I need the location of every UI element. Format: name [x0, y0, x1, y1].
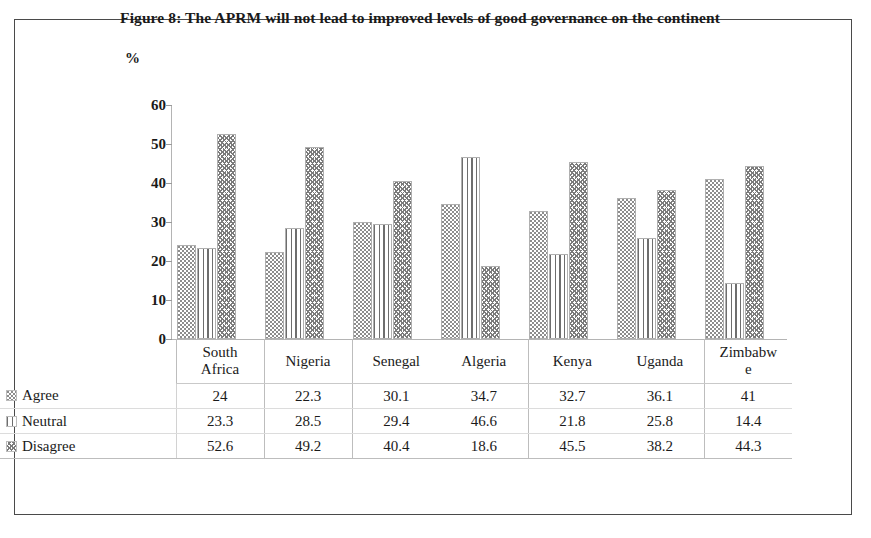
bar-neutral-uganda — [637, 238, 656, 339]
column-header-label-cont: e — [705, 361, 793, 378]
cell-neutral-uganda: 25.8 — [616, 409, 704, 434]
column-header-algeria: Algeria — [440, 339, 528, 384]
cell-disagree-kenya: 45.5 — [528, 434, 616, 459]
bar-group — [700, 105, 788, 339]
bar-group — [260, 105, 348, 339]
cell-agree-senegal: 30.1 — [352, 384, 440, 409]
bar-agree-zimbabwe — [705, 179, 724, 339]
column-header-zimbabwe: Zimbabwe — [704, 339, 792, 384]
table-header-corner — [0, 339, 176, 384]
y-tick-label: 60 — [132, 99, 166, 111]
bar-group — [348, 105, 436, 339]
bar-agree-nigeria — [265, 252, 284, 339]
cell-disagree-south-africa: 52.6 — [176, 434, 264, 459]
bar-group — [436, 105, 524, 339]
bar-groups — [172, 105, 788, 339]
cell-neutral-kenya: 21.8 — [528, 409, 616, 434]
cell-neutral-south-africa: 23.3 — [176, 409, 264, 434]
bar-neutral-kenya — [549, 254, 568, 339]
legend-entry-disagree: Disagree — [0, 434, 176, 459]
legend-swatch-vertical-lines-icon — [6, 416, 17, 427]
bar-disagree-kenya — [569, 162, 588, 339]
data-table: SouthAfricaNigeriaSenegalAlgeriaKenyaUga… — [0, 339, 838, 459]
legend-swatch-dots-icon — [6, 390, 17, 401]
cell-neutral-nigeria: 28.5 — [264, 409, 352, 434]
cell-disagree-nigeria: 49.2 — [264, 434, 352, 459]
column-header-label: Uganda — [616, 353, 704, 370]
column-header-nigeria: Nigeria — [264, 339, 352, 384]
column-header-senegal: Senegal — [352, 339, 440, 384]
column-header-label: Senegal — [353, 353, 441, 370]
cell-disagree-zimbabwe: 44.3 — [704, 434, 792, 459]
bar-group — [612, 105, 700, 339]
bar-agree-uganda — [617, 198, 636, 339]
cell-disagree-algeria: 18.6 — [440, 434, 528, 459]
cell-neutral-algeria: 46.6 — [440, 409, 528, 434]
bar-disagree-uganda — [657, 190, 676, 339]
column-header-label: Zimbabw — [705, 344, 793, 361]
column-header-label: Algeria — [440, 353, 528, 370]
legend-label: Disagree — [22, 438, 75, 454]
bar-neutral-algeria — [461, 157, 480, 339]
cell-agree-kenya: 32.7 — [528, 384, 616, 409]
legend-entry-agree: Agree — [0, 384, 176, 409]
legend-label: Agree — [22, 387, 59, 403]
table-row-pad — [792, 409, 838, 434]
bar-neutral-nigeria — [285, 228, 304, 339]
bar-disagree-nigeria — [305, 147, 324, 339]
legend-label: Neutral — [22, 413, 67, 429]
y-tick-label: 20 — [132, 255, 166, 267]
cell-agree-zimbabwe: 41 — [704, 384, 792, 409]
bar-agree-kenya — [529, 211, 548, 339]
column-header-label: Nigeria — [265, 353, 352, 370]
cell-agree-algeria: 34.7 — [440, 384, 528, 409]
table-header-row: SouthAfricaNigeriaSenegalAlgeriaKenyaUga… — [0, 339, 838, 384]
y-tick-label: 30 — [132, 216, 166, 228]
bar-disagree-algeria — [481, 266, 500, 339]
bar-agree-south-africa — [177, 245, 196, 339]
table-row: Disagree52.649.240.418.645.538.244.3 — [0, 434, 838, 459]
y-tick-label: 10 — [132, 294, 166, 306]
table-row: Neutral23.328.529.446.621.825.814.4 — [0, 409, 838, 434]
cell-disagree-senegal: 40.4 — [352, 434, 440, 459]
table-row: Agree2422.330.134.732.736.141 — [0, 384, 838, 409]
bar-neutral-zimbabwe — [725, 283, 744, 339]
column-header-kenya: Kenya — [528, 339, 616, 384]
legend-swatch-wave-icon — [6, 441, 17, 452]
y-tick-label: 40 — [132, 177, 166, 189]
bar-neutral-south-africa — [197, 248, 216, 339]
cell-agree-uganda: 36.1 — [616, 384, 704, 409]
series-value-table: SouthAfricaNigeriaSenegalAlgeriaKenyaUga… — [0, 339, 838, 459]
cell-neutral-senegal: 29.4 — [352, 409, 440, 434]
column-header-label-cont: Africa — [177, 361, 264, 378]
table-header-pad — [792, 339, 838, 384]
bar-disagree-zimbabwe — [745, 166, 764, 339]
bar-disagree-south-africa — [217, 134, 236, 339]
cell-neutral-zimbabwe: 14.4 — [704, 409, 792, 434]
cell-agree-south-africa: 24 — [176, 384, 264, 409]
cell-agree-nigeria: 22.3 — [264, 384, 352, 409]
table-row-pad — [792, 434, 838, 459]
bar-agree-senegal — [353, 222, 372, 339]
column-header-label: South — [177, 344, 264, 361]
bar-agree-algeria — [441, 204, 460, 339]
bar-disagree-senegal — [393, 181, 412, 339]
column-header-label: Kenya — [529, 353, 617, 370]
bar-group — [524, 105, 612, 339]
bar-group — [172, 105, 260, 339]
table-row-pad — [792, 384, 838, 409]
y-tick-label: 50 — [132, 138, 166, 150]
column-header-uganda: Uganda — [616, 339, 704, 384]
bar-neutral-senegal — [373, 224, 392, 339]
column-header-south-africa: SouthAfrica — [176, 339, 264, 384]
legend-entry-neutral: Neutral — [0, 409, 176, 434]
cell-disagree-uganda: 38.2 — [616, 434, 704, 459]
